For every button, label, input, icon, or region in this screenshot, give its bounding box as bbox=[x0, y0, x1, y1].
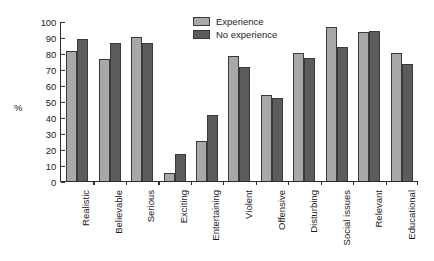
x-label-cell: Offensive bbox=[255, 188, 288, 260]
x-axis-labels: RealisticBelievableSeriousExcitingEntert… bbox=[60, 188, 418, 260]
bar-no-experience bbox=[142, 43, 153, 181]
bar-experience bbox=[326, 27, 337, 181]
x-tick-mark bbox=[417, 181, 418, 185]
x-axis-label: Realistic bbox=[80, 190, 91, 226]
x-tick-mark bbox=[191, 181, 192, 185]
bar-group bbox=[93, 22, 125, 181]
bar-no-experience bbox=[304, 58, 315, 181]
bar-groups bbox=[61, 22, 418, 181]
bar-no-experience bbox=[272, 98, 283, 181]
x-tick-mark bbox=[288, 181, 289, 185]
x-tick-mark bbox=[321, 181, 322, 185]
bar-experience bbox=[391, 53, 402, 181]
bar-experience bbox=[164, 173, 175, 181]
plot-area: 1009080706050403020100 bbox=[60, 22, 418, 182]
y-tick-label: 40 bbox=[46, 113, 61, 124]
y-tick-label: 70 bbox=[46, 65, 61, 76]
x-label-cell: Disturbing bbox=[288, 188, 321, 260]
bar-no-experience bbox=[77, 39, 88, 181]
y-tick-label: 0 bbox=[51, 177, 61, 188]
x-axis-label: Relevant bbox=[373, 190, 384, 228]
bar-no-experience bbox=[402, 64, 413, 181]
bar-group bbox=[288, 22, 320, 181]
bar-experience bbox=[261, 95, 272, 181]
y-tick-label: 30 bbox=[46, 129, 61, 140]
bar-no-experience bbox=[207, 115, 218, 181]
bar-group bbox=[386, 22, 418, 181]
bar-experience bbox=[99, 59, 110, 181]
bar-group bbox=[321, 22, 353, 181]
y-tick-label: 80 bbox=[46, 49, 61, 60]
x-axis-label: Educational bbox=[406, 190, 417, 240]
bar-group bbox=[353, 22, 385, 181]
y-tick-label: 20 bbox=[46, 145, 61, 156]
x-axis-label: Exciting bbox=[178, 190, 189, 223]
x-axis-label: Believable bbox=[113, 190, 124, 234]
x-tick-mark bbox=[386, 181, 387, 185]
x-label-cell: Violent bbox=[223, 188, 256, 260]
bar-no-experience bbox=[110, 43, 121, 181]
bar-group bbox=[158, 22, 190, 181]
x-tick-mark bbox=[158, 181, 159, 185]
x-axis-label: Serious bbox=[145, 190, 156, 222]
bar-group bbox=[223, 22, 255, 181]
x-axis-label: Offensive bbox=[276, 190, 287, 230]
bar-experience bbox=[358, 32, 369, 181]
y-tick-label: 90 bbox=[46, 33, 61, 44]
y-axis-title: % bbox=[14, 102, 22, 113]
x-label-cell: Entertaining bbox=[190, 188, 223, 260]
x-axis-label: Entertaining bbox=[210, 190, 221, 241]
bar-experience bbox=[66, 51, 77, 181]
bar-group bbox=[61, 22, 93, 181]
bar-no-experience bbox=[175, 154, 186, 181]
x-label-cell: Relevant bbox=[353, 188, 386, 260]
x-axis-label: Disturbing bbox=[308, 190, 319, 233]
x-label-cell: Serious bbox=[125, 188, 158, 260]
bar-group bbox=[126, 22, 158, 181]
y-tick-label: 50 bbox=[46, 97, 61, 108]
x-label-cell: Exciting bbox=[158, 188, 191, 260]
x-tick-mark bbox=[126, 181, 127, 185]
bar-no-experience bbox=[239, 67, 250, 181]
x-tick-mark bbox=[256, 181, 257, 185]
y-tick-label: 60 bbox=[46, 81, 61, 92]
bar-experience bbox=[293, 53, 304, 181]
bar-group bbox=[256, 22, 288, 181]
bar-experience bbox=[196, 141, 207, 181]
bar-experience bbox=[131, 37, 142, 181]
bar-experience bbox=[228, 56, 239, 181]
bar-group bbox=[191, 22, 223, 181]
x-axis-label: Social issues bbox=[341, 190, 352, 245]
bar-no-experience bbox=[337, 47, 348, 181]
bar-chart: % Experience No experience 1009080706050… bbox=[0, 0, 434, 261]
bar-no-experience bbox=[369, 31, 380, 181]
y-tick-label: 100 bbox=[41, 17, 61, 28]
x-tick-mark bbox=[353, 181, 354, 185]
x-tick-mark bbox=[93, 181, 94, 185]
x-tick-mark bbox=[223, 181, 224, 185]
y-tick-mark bbox=[61, 181, 65, 182]
x-label-cell: Social issues bbox=[320, 188, 353, 260]
x-label-cell: Believable bbox=[93, 188, 126, 260]
x-label-cell: Educational bbox=[385, 188, 418, 260]
x-axis-label: Violent bbox=[243, 190, 254, 219]
y-tick-label: 10 bbox=[46, 161, 61, 172]
x-label-cell: Realistic bbox=[60, 188, 93, 260]
